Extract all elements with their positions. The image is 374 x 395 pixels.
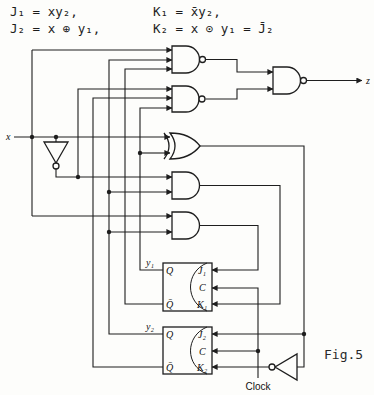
pin-q: Q — [166, 329, 174, 340]
jk-flip-flop-1: Q Q̄ J₁ C K₁ — [163, 263, 212, 311]
nand-gate-1 — [172, 46, 206, 73]
junctions — [30, 135, 306, 353]
and-gate-j1 — [172, 212, 199, 239]
y1-label: y₁ — [145, 257, 154, 268]
junction-dot — [256, 349, 260, 353]
nand-gate-2 — [172, 86, 205, 112]
and-body — [172, 212, 199, 239]
wire-nand2-out — [206, 89, 274, 99]
equation-j2: J₂ = x ⊕ y₁, — [10, 21, 100, 36]
nand-body — [172, 46, 199, 73]
nand-bubble — [301, 78, 307, 84]
wire-y1 — [140, 108, 172, 270]
equation-k1: K₁ = x̄y₂, — [153, 4, 221, 19]
equation-j1: J₁ = xy₂, — [10, 4, 78, 19]
inverter-x — [44, 142, 68, 169]
junction-dot — [54, 135, 58, 139]
nand-body — [172, 86, 199, 112]
xor-body — [170, 133, 200, 159]
pin-k: K₂ — [196, 362, 208, 373]
inverter-triangle-icon — [44, 142, 68, 163]
junction-dot — [302, 332, 306, 336]
jk-flip-flop-2: Q Q̄ J₂ C K₂ — [163, 327, 212, 374]
wire-xbar-to-and-k1 — [56, 169, 172, 177]
input-x-label: x — [5, 131, 11, 142]
y2-label: y₂ — [145, 321, 154, 332]
output-z-label: z — [365, 75, 370, 86]
junction-dot — [30, 135, 34, 139]
pin-k: K₁ — [196, 299, 207, 310]
pin-q-bar: Q̄ — [166, 299, 174, 310]
and-gate-k1 — [172, 172, 200, 199]
junction-dot — [76, 175, 80, 179]
nand-gate-output — [273, 67, 307, 94]
nand-bubble — [199, 96, 205, 102]
wire-clock-c1 — [212, 288, 258, 378]
pin-j: J₂ — [198, 329, 206, 340]
inverter-bubble — [269, 364, 275, 370]
circuit-diagram: J₁ = xy₂, K₁ = x̄y₂, J₂ = x ⊕ y₁, K₂ = x… — [0, 0, 374, 395]
and-body — [172, 172, 200, 199]
inverter-triangle-icon — [275, 354, 297, 380]
pin-j: J₁ — [198, 265, 206, 276]
nand-bubble — [200, 57, 206, 63]
inverter-bubble — [53, 163, 59, 169]
pin-q: Q — [166, 265, 174, 276]
clock-label: Clock — [245, 381, 271, 392]
pin-q-bar: Q̄ — [166, 362, 174, 373]
equation-k2: K₂ = x ⊙ y₁ = J̄₂ — [153, 21, 273, 36]
pin-c: C — [199, 346, 206, 357]
junction-dot — [107, 230, 111, 234]
nand-body — [273, 67, 301, 94]
pin-c: C — [199, 282, 206, 293]
wire-nand1-out — [206, 60, 274, 73]
junction-dot — [138, 151, 142, 155]
equations: J₁ = xy₂, K₁ = x̄y₂, J₂ = x ⊕ y₁, K₂ = x… — [10, 4, 273, 36]
junction-dot — [107, 190, 111, 194]
figure-label: Fig.5 — [324, 347, 363, 362]
inverter-k2 — [269, 354, 297, 380]
